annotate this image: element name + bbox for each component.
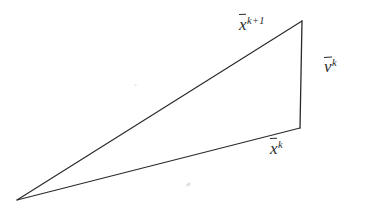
scan-smudge	[134, 84, 137, 86]
vector-triangle-figure: xk+1 vk xk	[0, 0, 374, 203]
x-k-label: xk	[270, 140, 283, 157]
x-k-label-exponent: k	[278, 139, 283, 150]
v-k-label-base: v	[324, 58, 332, 75]
x-k-label-base: x	[270, 140, 278, 157]
edge-x-k	[17, 128, 300, 200]
x-k-plus-1-label: xk+1	[239, 16, 265, 33]
triangle-line-art	[0, 0, 374, 203]
v-k-label-exponent: k	[332, 57, 337, 68]
x-k-plus-1-label-base: x	[239, 16, 247, 33]
edge-x-k-plus-1	[17, 21, 302, 200]
v-k-label: vk	[324, 58, 337, 75]
edge-v-k	[300, 21, 302, 128]
x-k-plus-1-label-exponent: k+1	[247, 15, 265, 26]
